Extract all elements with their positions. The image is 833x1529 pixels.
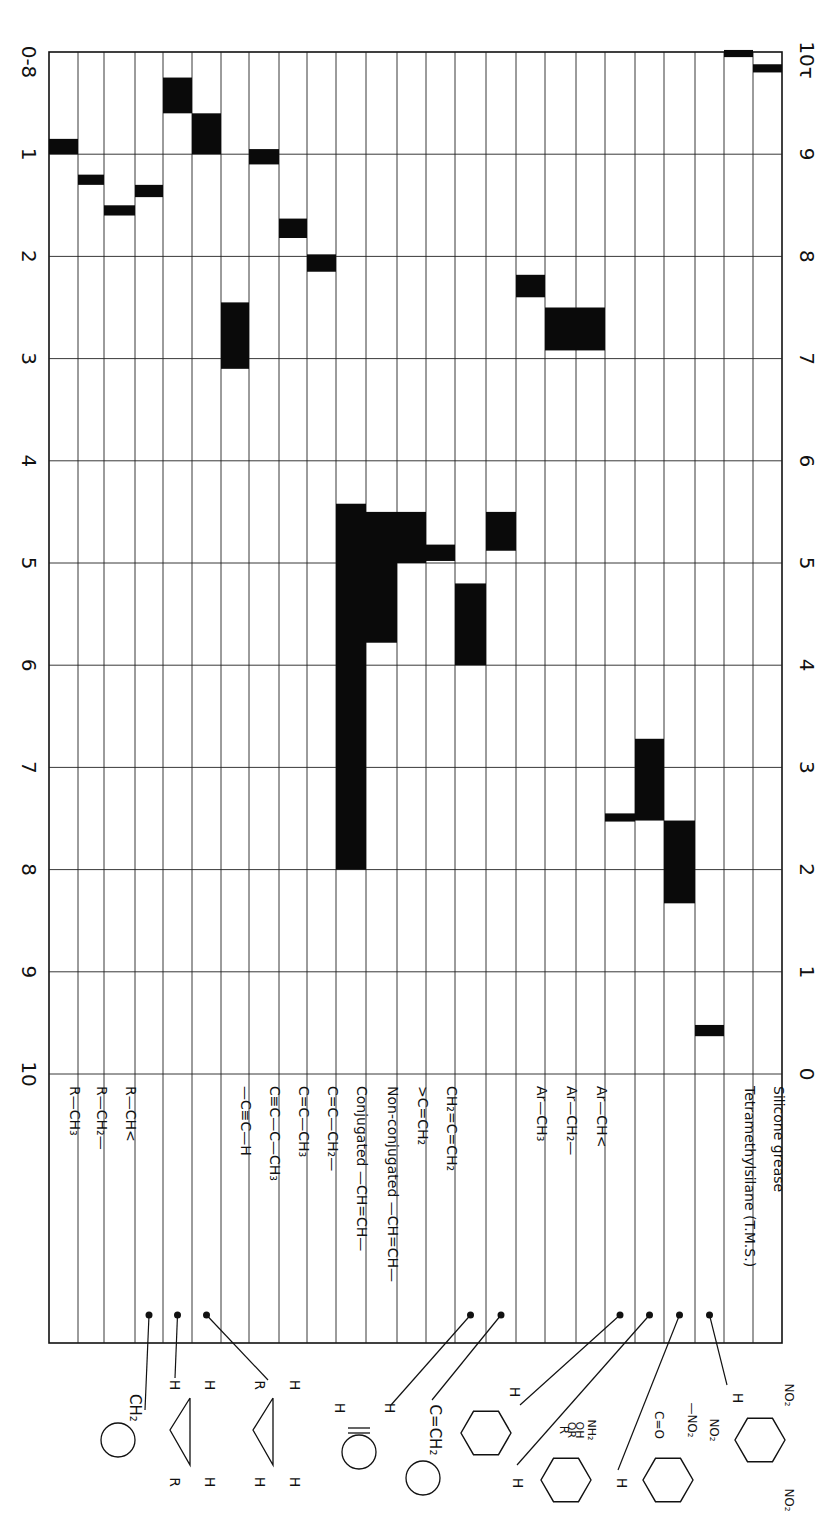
shift-range-bar (516, 275, 545, 297)
benzene-ring-icon (541, 1458, 591, 1501)
shift-range-bar (135, 185, 163, 197)
structure-label: NO₂ (707, 1418, 721, 1441)
structure-label: H (167, 1380, 183, 1391)
structure-label: NO₂ (782, 1488, 796, 1511)
column-label: Ar—CH₃ (534, 1086, 550, 1141)
column-label: —C≡C—H (238, 1086, 254, 1156)
pointer-line (618, 1315, 680, 1470)
column-label: Tetramethylsilane (T.M.S.) (742, 1085, 758, 1267)
nmr-correlation-chart: 0-81234567891010τ9876543210 R—CH₃R—CH₂—R… (0, 0, 833, 1529)
cyclopropane-icon (253, 1398, 273, 1465)
ring-icon (406, 1461, 440, 1495)
benzene-ring-icon (461, 1411, 511, 1454)
delta-tick-label: 8 (17, 863, 41, 876)
axis-ticks: 0-81234567891010τ9876543210 (17, 41, 819, 1086)
benzene-ring-icon (735, 1418, 785, 1461)
structure-diagrams: CH₂HHRHRHHHHHC=CH₂HHROROHNH₂HC=O—NO₂HNO₂… (101, 1312, 796, 1512)
cyclopropane-icon (170, 1398, 190, 1465)
shift-range-bar (724, 50, 753, 57)
shift-range-bar (455, 583, 486, 665)
shift-range-bar (49, 139, 78, 154)
shift-range-bar (366, 512, 397, 643)
shift-range-bar (605, 813, 635, 821)
structure-label: OH (573, 1422, 586, 1439)
structure-label: H (287, 1380, 303, 1391)
shift-range-bar (664, 821, 695, 904)
delta-tick-label: 0-8 (17, 46, 41, 79)
shift-range-bar (279, 219, 307, 238)
column-label: Ar—CH₂— (564, 1086, 580, 1155)
column-label: C≡C—C—CH₃ (267, 1086, 283, 1181)
shift-range-bar (397, 512, 426, 563)
structure-label: —NO₂ (685, 1402, 699, 1437)
tau-tick-label: 0 (795, 1068, 819, 1081)
chart-grid (49, 52, 782, 1343)
delta-tick-label: 2 (17, 250, 41, 263)
benzene-ring-icon (643, 1458, 693, 1501)
tau-tick-label: 2 (795, 863, 819, 876)
pointer-line (207, 1315, 269, 1380)
structure-label: NO₂ (782, 1383, 796, 1406)
shift-range-bar (426, 545, 455, 561)
column-label: C=C—CH₂— (325, 1086, 341, 1171)
shift-range-bar (336, 504, 366, 870)
pointer-line (520, 1315, 620, 1405)
structure-label: H (287, 1477, 303, 1488)
chart-bars (49, 50, 782, 1036)
pointer-line (175, 1315, 178, 1378)
shift-range-bar (249, 149, 279, 164)
column-label: Non-conjugated —CH=CH— (385, 1086, 401, 1282)
column-label: Conjugated —CH=CH— (354, 1086, 370, 1251)
shift-range-bar (753, 64, 782, 72)
shift-range-bar (576, 308, 605, 351)
tau-tick-label: 4 (795, 659, 819, 672)
column-labels: R—CH₃R—CH₂—R—CH<—C≡C—HC≡C—C—CH₃C=C—CH₃C=… (67, 1085, 787, 1282)
structure-label: H (202, 1477, 218, 1488)
structure-label: C=O (652, 1411, 666, 1439)
pointer-line (145, 1315, 149, 1410)
column-label: CH₂=C=CH₂ (444, 1086, 460, 1171)
shift-range-bar (695, 1025, 724, 1036)
tau-tick-label: 1 (795, 965, 819, 978)
delta-tick-label: 7 (17, 761, 41, 774)
shift-range-bar (104, 205, 135, 215)
structure-label: H (202, 1380, 218, 1391)
pointer-line (391, 1315, 471, 1405)
pointer-line (432, 1315, 501, 1400)
shift-range-bar (307, 254, 336, 271)
structure-label: H (252, 1477, 268, 1488)
tau-tick-label: 3 (795, 761, 819, 774)
structure-label: CH₂ (126, 1394, 144, 1422)
delta-tick-label: 4 (17, 454, 41, 467)
delta-tick-label: 1 (17, 148, 41, 161)
tau-tick-label: 5 (795, 557, 819, 570)
delta-tick-label: 10 (17, 1061, 41, 1086)
structure-label: C=CH₂ (426, 1405, 444, 1456)
tau-tick-label: 6 (795, 454, 819, 467)
structure-label: H (382, 1403, 398, 1414)
tau-tick-label: 10τ (795, 41, 819, 79)
shift-range-bar (486, 512, 516, 551)
column-label: R—CH₂— (94, 1086, 110, 1150)
delta-tick-label: 9 (17, 965, 41, 978)
tau-tick-label: 8 (795, 250, 819, 263)
shift-range-bar (163, 78, 192, 114)
structure-label: H (332, 1403, 348, 1414)
column-label: R—CH< (123, 1086, 139, 1142)
tau-tick-label: 9 (795, 148, 819, 161)
structure-label: H (510, 1478, 526, 1489)
structure-label: H (507, 1387, 523, 1398)
column-label: >C=CH₂ (415, 1086, 431, 1145)
structure-label: NH₂ (585, 1420, 598, 1441)
ring-icon (342, 1435, 376, 1469)
structure-label: R (252, 1380, 268, 1390)
column-label: Silicone grease (771, 1086, 787, 1192)
shift-range-bar (221, 302, 249, 368)
ring-icon (101, 1423, 135, 1457)
shift-range-bar (635, 739, 664, 821)
column-label: R—CH₃ (67, 1086, 83, 1136)
structure-label: H (730, 1393, 746, 1404)
column-label: Ar—CH< (594, 1086, 610, 1147)
delta-tick-label: 6 (17, 659, 41, 672)
column-label: C=C—CH₃ (296, 1086, 312, 1157)
